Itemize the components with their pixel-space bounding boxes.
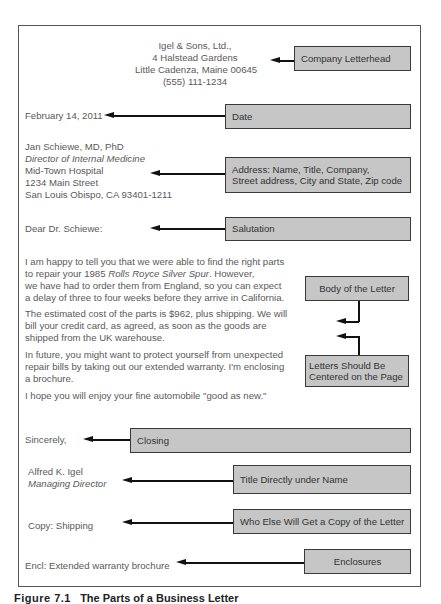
label-address-line-1: Address: Name, Title, Company, — [232, 164, 369, 176]
arrow-line — [112, 115, 225, 117]
letterhead-line-3: Little Cadenza, Maine 00645 — [135, 64, 255, 76]
label-centered-line-2: Centered on the Page — [309, 371, 403, 383]
address-title: Director of Internal Medicine — [25, 153, 145, 165]
label-salutation: Salutation — [225, 217, 411, 241]
car-model: Rolls Royce Silver Spur — [108, 268, 209, 279]
body-p1-line-3: we have had to order them from England, … — [25, 280, 282, 292]
body-p1-line-4: a delay of three to four weeks before th… — [25, 292, 284, 304]
body-p3-line-1: In future, you might want to protect you… — [25, 349, 283, 361]
connector-line — [358, 336, 360, 356]
body-p1-line-2: to repair your 1985 Rolls Royce Silver S… — [25, 268, 254, 280]
enclosure-notation: Encl: Extended warranty brochure — [25, 560, 170, 572]
label-centered-on-page: Letters Should Be Centered on the Page — [305, 355, 409, 387]
copy-notation: Copy: Shipping — [28, 520, 93, 532]
letterhead-line-4: (555) 111-1234 — [145, 76, 245, 88]
label-date: Date — [225, 104, 411, 129]
arrow-line — [158, 228, 225, 230]
arrow-line — [130, 522, 234, 524]
label-address-line-2: Street address, City and State, Zip code — [232, 175, 402, 187]
address-name: Jan Schiewe, MD, PhD — [25, 141, 124, 153]
label-centered-line-1: Letters Should Be — [309, 360, 385, 372]
letterhead-line-2: 4 Halstead Gardens — [145, 52, 245, 64]
figure-number: Figure 7.1 — [14, 592, 71, 604]
label-enclosures: Enclosures — [304, 549, 411, 574]
body-p3-line-3: a brochure. — [25, 373, 74, 385]
figure-title: The Parts of a Business Letter — [80, 592, 238, 604]
address-city-state-zip: San Louis Obispo, CA 93401-1211 — [25, 189, 172, 201]
signer-name: Alfred K. Igel — [28, 466, 83, 478]
body-p3-line-2: repair bills by taking out our extended … — [25, 361, 284, 373]
label-body-of-letter: Body of the Letter — [305, 276, 409, 301]
label-company-letterhead: Company Letterhead — [294, 46, 411, 71]
body-p4: I hope you will enjoy your fine automobi… — [25, 390, 266, 402]
arrow-line — [130, 480, 234, 482]
figure-caption: Figure 7.1 The Parts of a Business Lette… — [14, 592, 238, 604]
label-copy: Who Else Will Get a Copy of the Letter — [233, 509, 411, 534]
signer-title: Managing Director — [28, 478, 106, 490]
body-p2-line-3: shipped from the UK warehouse. — [25, 332, 165, 344]
closing: Sincerely, — [25, 434, 66, 446]
label-address: Address: Name, Title, Company, Street ad… — [225, 157, 411, 193]
label-title-under-name: Title Directly under Name — [233, 465, 411, 494]
salutation: Dear Dr. Schiewe: — [25, 223, 102, 235]
arrow-line — [184, 562, 305, 564]
arrow-line — [158, 173, 225, 175]
label-closing: Closing — [130, 428, 411, 453]
address-street: 1234 Main Street — [25, 177, 98, 189]
letterhead-line-1: Igel & Sons, Ltd., — [145, 40, 245, 52]
arrow-line — [344, 321, 359, 323]
arrow-head-icon — [336, 318, 346, 324]
arrow-head-icon — [336, 333, 346, 339]
arrow-line — [91, 439, 130, 441]
connector-line — [358, 301, 360, 322]
address-company: Mid-Town Hospital — [25, 165, 103, 177]
body-p2-line-1: The estimated cost of the parts is $962,… — [25, 308, 287, 320]
arrow-line — [344, 336, 359, 338]
body-p1-line-1: I am happy to tell you that we were able… — [25, 256, 284, 268]
arrow-line — [278, 60, 294, 62]
letter-date: February 14, 2011 — [25, 110, 103, 122]
body-p2-line-2: bill your credit card, as agreed, as soo… — [25, 320, 267, 332]
